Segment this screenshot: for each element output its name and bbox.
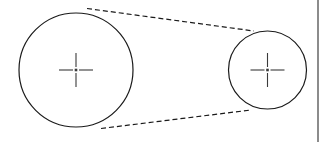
large-pulley-center-crosshair-icon	[59, 53, 93, 87]
crosshair-center-dot	[75, 69, 78, 72]
crosshair-center-dot	[266, 69, 269, 72]
pulley-diagram-canvas	[0, 0, 325, 142]
right-edge-divider	[317, 0, 319, 142]
small-pulley-center-crosshair-icon	[251, 53, 285, 87]
belt-lower-tangent-line	[101, 110, 251, 129]
belt-upper-tangent-line	[87, 9, 254, 32]
pulley-diagram-svg	[0, 0, 325, 142]
